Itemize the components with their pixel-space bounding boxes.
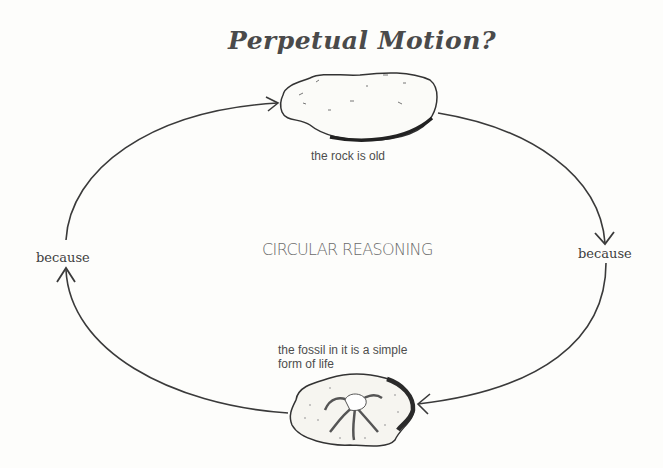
arrow-rock-to-fossil-lower: [418, 263, 606, 404]
arrow-fossil-to-rock-lower: [66, 270, 288, 413]
edge-label-left: because: [36, 250, 90, 265]
node-label-rock: the rock is old: [311, 149, 385, 163]
diagram-canvas: Perpetual Motion?: [0, 0, 663, 468]
fossil-rock-illustration-icon: [290, 374, 414, 446]
arrow-fossil-to-rock-upper: [66, 103, 278, 240]
node-label-fossil: the fossil in it is a simple form of lif…: [278, 343, 407, 371]
node-label-fossil-line2: form of life: [278, 357, 407, 371]
node-label-fossil-line1: the fossil in it is a simple: [278, 343, 407, 357]
arrow-rock-to-fossil-upper: [438, 113, 605, 243]
edge-label-right: because: [578, 246, 632, 261]
rock-illustration-icon: [280, 73, 437, 140]
center-label: CIRCULAR REASONING: [262, 240, 433, 259]
cycle-diagram: [0, 0, 663, 468]
